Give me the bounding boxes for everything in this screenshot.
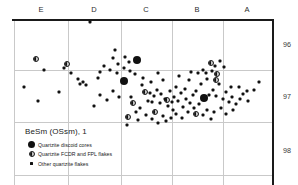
data-point — [218, 83, 221, 86]
data-point — [215, 95, 218, 98]
data-point — [97, 77, 100, 80]
data-point — [188, 79, 191, 82]
data-point — [150, 81, 153, 84]
data-point — [178, 75, 181, 78]
data-point — [99, 94, 102, 97]
data-point — [222, 98, 225, 101]
chart-legend: BeSm (OSsm), 1 Quartzite discoid coresQu… — [25, 127, 112, 169]
data-point — [137, 119, 140, 122]
axis-right-line — [272, 19, 274, 185]
data-point — [198, 103, 201, 106]
data-point — [162, 115, 165, 118]
x-tick-label-D: D — [91, 5, 97, 14]
data-point — [133, 56, 141, 64]
data-point — [139, 107, 142, 110]
data-point — [182, 106, 185, 109]
data-point — [157, 72, 160, 75]
data-point — [242, 93, 245, 96]
data-point — [171, 101, 174, 104]
data-point — [126, 124, 129, 127]
data-point — [156, 89, 159, 92]
gridline-horizontal-1 — [14, 122, 272, 123]
data-point — [142, 77, 145, 80]
data-point — [106, 99, 109, 102]
gridline-vertical-0 — [14, 19, 15, 185]
data-point — [129, 70, 132, 73]
large-filled-circle-icon — [28, 141, 35, 148]
data-point — [205, 72, 208, 75]
y-tick-label-96: 96 — [283, 40, 291, 49]
data-point — [235, 103, 238, 106]
legend-marker-box — [25, 151, 38, 157]
gridline-vertical-4 — [223, 19, 224, 185]
data-point — [130, 100, 136, 106]
data-point — [253, 89, 256, 92]
data-point — [128, 61, 131, 64]
data-point — [149, 92, 152, 95]
data-point — [116, 72, 119, 75]
legend-item-1: Quartzite FCDR and FPL flakes — [25, 150, 112, 159]
data-point — [238, 86, 241, 89]
data-point — [200, 83, 203, 86]
data-point — [89, 21, 92, 24]
data-point — [208, 94, 211, 97]
data-point — [112, 57, 115, 60]
legend-item-2: Other quartzite flakes — [25, 159, 112, 168]
x-tick-label-A: A — [244, 5, 249, 14]
data-point — [63, 67, 66, 70]
data-point — [123, 67, 126, 70]
data-point — [77, 78, 80, 81]
data-point — [33, 56, 39, 62]
data-point — [231, 96, 234, 99]
data-point — [135, 111, 138, 114]
axis-top-line — [12, 19, 274, 21]
data-point — [93, 105, 96, 108]
x-tick-label-B: B — [194, 5, 199, 14]
data-point — [258, 81, 261, 84]
data-point — [172, 109, 175, 112]
data-point — [225, 113, 228, 116]
data-point — [223, 66, 226, 69]
data-point — [187, 111, 190, 114]
data-point — [164, 98, 167, 101]
data-point — [206, 78, 209, 81]
data-point — [175, 86, 178, 89]
data-point — [228, 101, 231, 104]
data-point — [151, 118, 154, 121]
legend-item-label: Quartzite FCDR and FPL flakes — [38, 151, 112, 157]
data-point — [160, 93, 163, 96]
data-point — [220, 107, 223, 110]
x-tick-label-E: E — [38, 5, 43, 14]
legend-marker-box — [25, 141, 38, 148]
data-point — [103, 65, 106, 68]
data-point — [152, 109, 158, 115]
y-tick-label-97: 97 — [283, 92, 291, 101]
data-point — [213, 111, 216, 114]
data-point — [184, 88, 187, 91]
data-point — [211, 70, 214, 73]
data-point — [142, 89, 148, 95]
data-point — [230, 86, 233, 89]
data-point — [193, 107, 196, 110]
data-point — [85, 84, 88, 87]
x-tick-label-C: C — [143, 5, 149, 14]
data-point — [175, 113, 178, 116]
data-point — [120, 77, 128, 85]
data-point — [202, 114, 205, 117]
data-point — [189, 102, 192, 105]
data-point — [37, 100, 40, 103]
data-point — [167, 105, 170, 108]
data-point — [125, 114, 131, 120]
y-tick-label-98: 98 — [283, 146, 291, 155]
data-point — [210, 118, 213, 121]
data-point — [99, 71, 102, 74]
half-filled-circle-icon — [29, 151, 35, 157]
legend-item-0: Quartzite discoid cores — [25, 140, 112, 149]
data-point — [153, 95, 156, 98]
data-point — [206, 109, 209, 112]
data-point — [124, 56, 127, 59]
data-point — [130, 96, 133, 99]
data-point — [177, 100, 180, 103]
data-point — [225, 91, 228, 94]
data-point — [202, 69, 205, 72]
